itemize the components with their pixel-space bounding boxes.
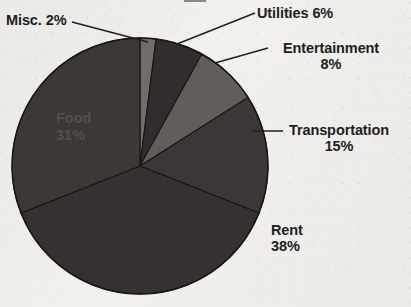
slice-label-utilities: Utilities 6% xyxy=(257,5,333,21)
slice-label-food-percent: 31% xyxy=(56,127,91,144)
leader-line-utilities xyxy=(177,13,255,44)
slice-label-transportation-percent: 15% xyxy=(268,138,410,154)
slice-label-rent: Rent 38% xyxy=(271,222,303,254)
slice-label-rent-percent: 38% xyxy=(271,238,303,254)
pie-chart-figure: Misc. 2% Utilities 6% Entertainment 8% T… xyxy=(0,0,411,307)
slice-label-food-name: Food xyxy=(56,110,91,127)
slice-label-transportation-name: Transportation xyxy=(268,122,410,138)
slice-label-entertainment-percent: 8% xyxy=(256,56,406,72)
slice-label-food: Food 31% xyxy=(56,110,91,145)
slice-label-entertainment: Entertainment 8% xyxy=(256,40,406,72)
slice-label-rent-name: Rent xyxy=(271,222,303,238)
slice-label-transportation: Transportation 15% xyxy=(268,122,410,154)
slice-label-misc: Misc. 2% xyxy=(6,12,66,28)
leader-line-misc xyxy=(72,22,148,42)
slice-label-entertainment-name: Entertainment xyxy=(256,40,406,56)
